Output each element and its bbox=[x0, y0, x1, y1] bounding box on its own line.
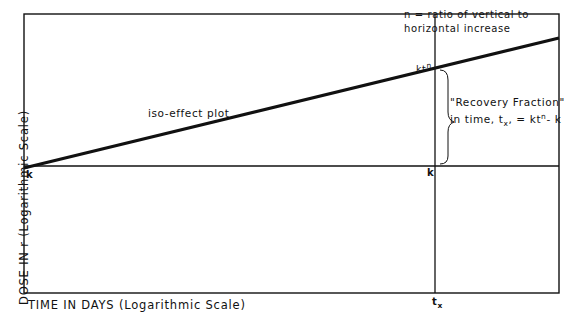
tx-axis-label: tx bbox=[432, 296, 443, 307]
formula-prefix: in time, t bbox=[450, 113, 503, 125]
formula-suffix: - k bbox=[546, 113, 561, 125]
k-label-tx: k bbox=[427, 167, 434, 178]
x-axis-label: TIME IN DAYS (Logarithmic Scale) bbox=[28, 298, 246, 312]
plot-frame bbox=[24, 14, 559, 293]
formula-mid: , = kt bbox=[508, 113, 541, 125]
k-label-origin: k bbox=[26, 169, 33, 180]
recovery-fraction-title: "Recovery Fraction" bbox=[450, 96, 565, 108]
n-definition-line2: horizontal increase bbox=[404, 23, 511, 34]
n-definition-line1: n = ratio of vertical to bbox=[404, 9, 529, 20]
y-axis-label: DOSE IN r (Logarithmic Scale) bbox=[17, 125, 31, 305]
ktn-exponent: n bbox=[426, 61, 431, 70]
tx-subscript: x bbox=[437, 301, 442, 310]
diagram-canvas bbox=[0, 0, 568, 317]
ktn-label: ktn bbox=[416, 63, 432, 74]
recovery-fraction-formula: in time, tx, = ktn- k bbox=[450, 113, 561, 125]
ktn-base: kt bbox=[416, 63, 426, 74]
iso-effect-label: iso-effect plot bbox=[148, 107, 229, 119]
